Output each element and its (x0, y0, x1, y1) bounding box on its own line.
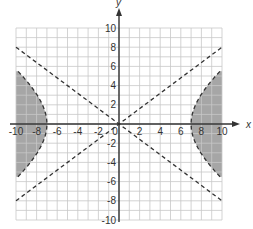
x-tick-label: -2 (94, 126, 103, 137)
x-tick-label: 8 (199, 126, 205, 137)
coordinate-plane-chart: xy-10-8-6-4-20246810-10-8-6-4-2246810 (0, 0, 253, 229)
y-tick-label: -8 (107, 195, 116, 206)
x-tick-label: 0 (112, 126, 118, 137)
y-tick-label: 4 (110, 80, 116, 91)
y-tick-label: 8 (110, 42, 116, 53)
x-tick-label: -6 (53, 126, 62, 137)
y-tick-label: 10 (105, 23, 117, 34)
x-axis-label: x (245, 119, 252, 130)
x-tick-label: 2 (137, 126, 143, 137)
x-tick-label: 10 (216, 126, 228, 137)
y-tick-label: -4 (107, 157, 116, 168)
y-tick-label: -2 (107, 138, 116, 149)
y-tick-label: 2 (110, 99, 116, 110)
x-tick-label: 4 (157, 126, 163, 137)
x-axis-arrow-icon (232, 121, 240, 127)
x-tick-label: -10 (9, 126, 24, 137)
y-tick-label: -10 (102, 215, 117, 226)
x-tick-label: -4 (73, 126, 82, 137)
x-tick-label: -8 (32, 126, 41, 137)
y-tick-label: -6 (107, 176, 116, 187)
y-axis-label: y (115, 0, 122, 8)
y-axis-arrow-icon (116, 8, 122, 16)
chart-svg: xy-10-8-6-4-20246810-10-8-6-4-2246810 (0, 0, 253, 229)
y-tick-label: 6 (110, 61, 116, 72)
x-tick-label: 6 (178, 126, 184, 137)
